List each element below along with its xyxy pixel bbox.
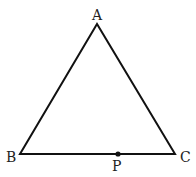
point-p-marker — [115, 151, 120, 156]
vertex-label-b: B — [6, 149, 16, 165]
vertex-label-a: A — [91, 7, 103, 23]
point-label-p: P — [112, 158, 121, 174]
triangle-diagram: ǐ A B C P — [0, 0, 196, 177]
triangle-abc — [20, 24, 175, 154]
vertex-label-c: C — [180, 149, 191, 165]
